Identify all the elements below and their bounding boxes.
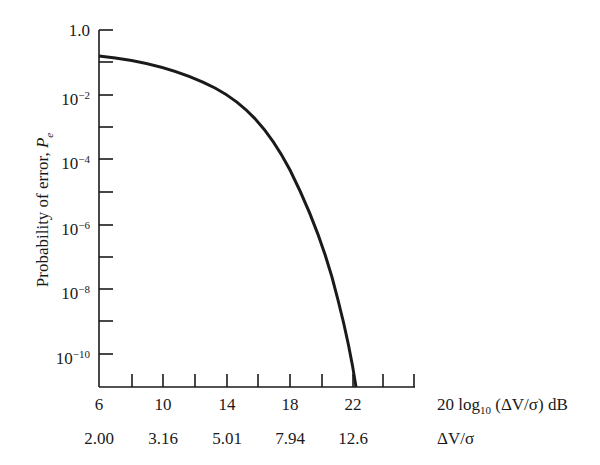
x-axis-label-ratio: ΔV/σ <box>437 430 474 447</box>
x-tick-db-22: 22 <box>345 396 362 413</box>
y-tick-1e-10: 10−10 <box>30 349 90 367</box>
x-tick-db-6: 6 <box>95 396 104 413</box>
x-tick-ratio-5: 5.01 <box>212 430 242 447</box>
x-tick-db-10: 10 <box>155 396 172 413</box>
y-tick-1e-4: 10−4 <box>30 154 90 172</box>
x-tick-db-18: 18 <box>282 396 299 413</box>
y-tick-1e-8: 10−8 <box>30 284 90 302</box>
x-tick-ratio-2: 2.00 <box>84 430 114 447</box>
y-tick-1e-2: 10−2 <box>30 90 90 108</box>
x-tick-ratio-8: 7.94 <box>275 430 305 447</box>
x-tick-ratio-12: 12.6 <box>338 430 368 447</box>
y-tick-1: 1.0 <box>30 22 90 39</box>
y-tick-1e-6: 10−6 <box>30 220 90 238</box>
x-axis-label-db: 20 log10 (ΔV/σ) dB <box>437 396 568 416</box>
x-tick-ratio-3: 3.16 <box>148 430 178 447</box>
x-tick-db-14: 14 <box>219 396 236 413</box>
pe-curve <box>99 56 356 387</box>
